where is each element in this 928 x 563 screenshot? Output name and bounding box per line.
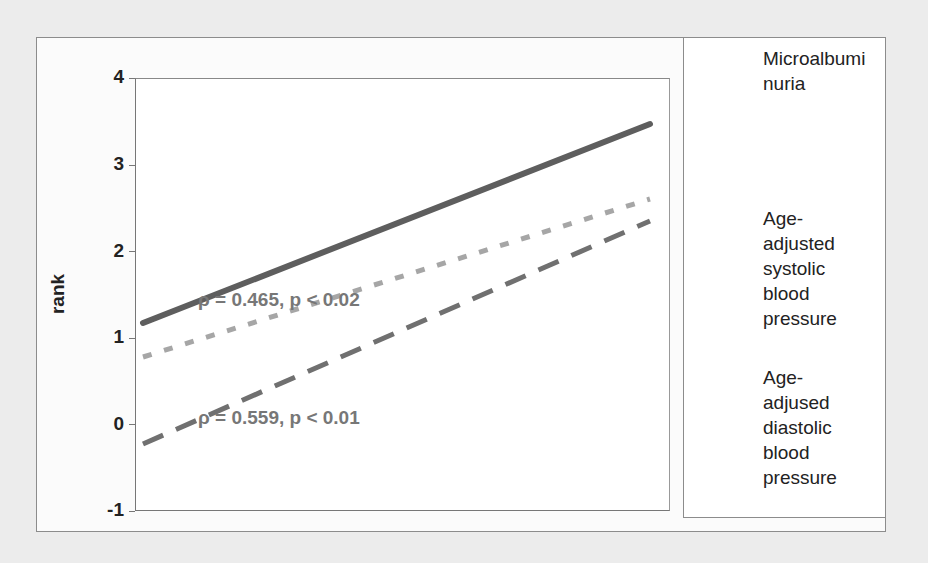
annotation-diastolic-correlation: ρ = 0.465, p < 0.02 xyxy=(198,289,360,311)
legend-label-microalbuminuria: Microalbumi nuria xyxy=(763,46,865,96)
legend: Microalbumi nuria Age- adjusted systolic… xyxy=(683,37,886,518)
annotation-systolic-correlation: ρ = 0.559, p < 0.01 xyxy=(198,407,360,429)
legend-label-systolic: Age- adjusted systolic blood pressure xyxy=(763,206,837,331)
legend-label-diastolic: Age- adjused diastolic blood pressure xyxy=(763,365,837,490)
